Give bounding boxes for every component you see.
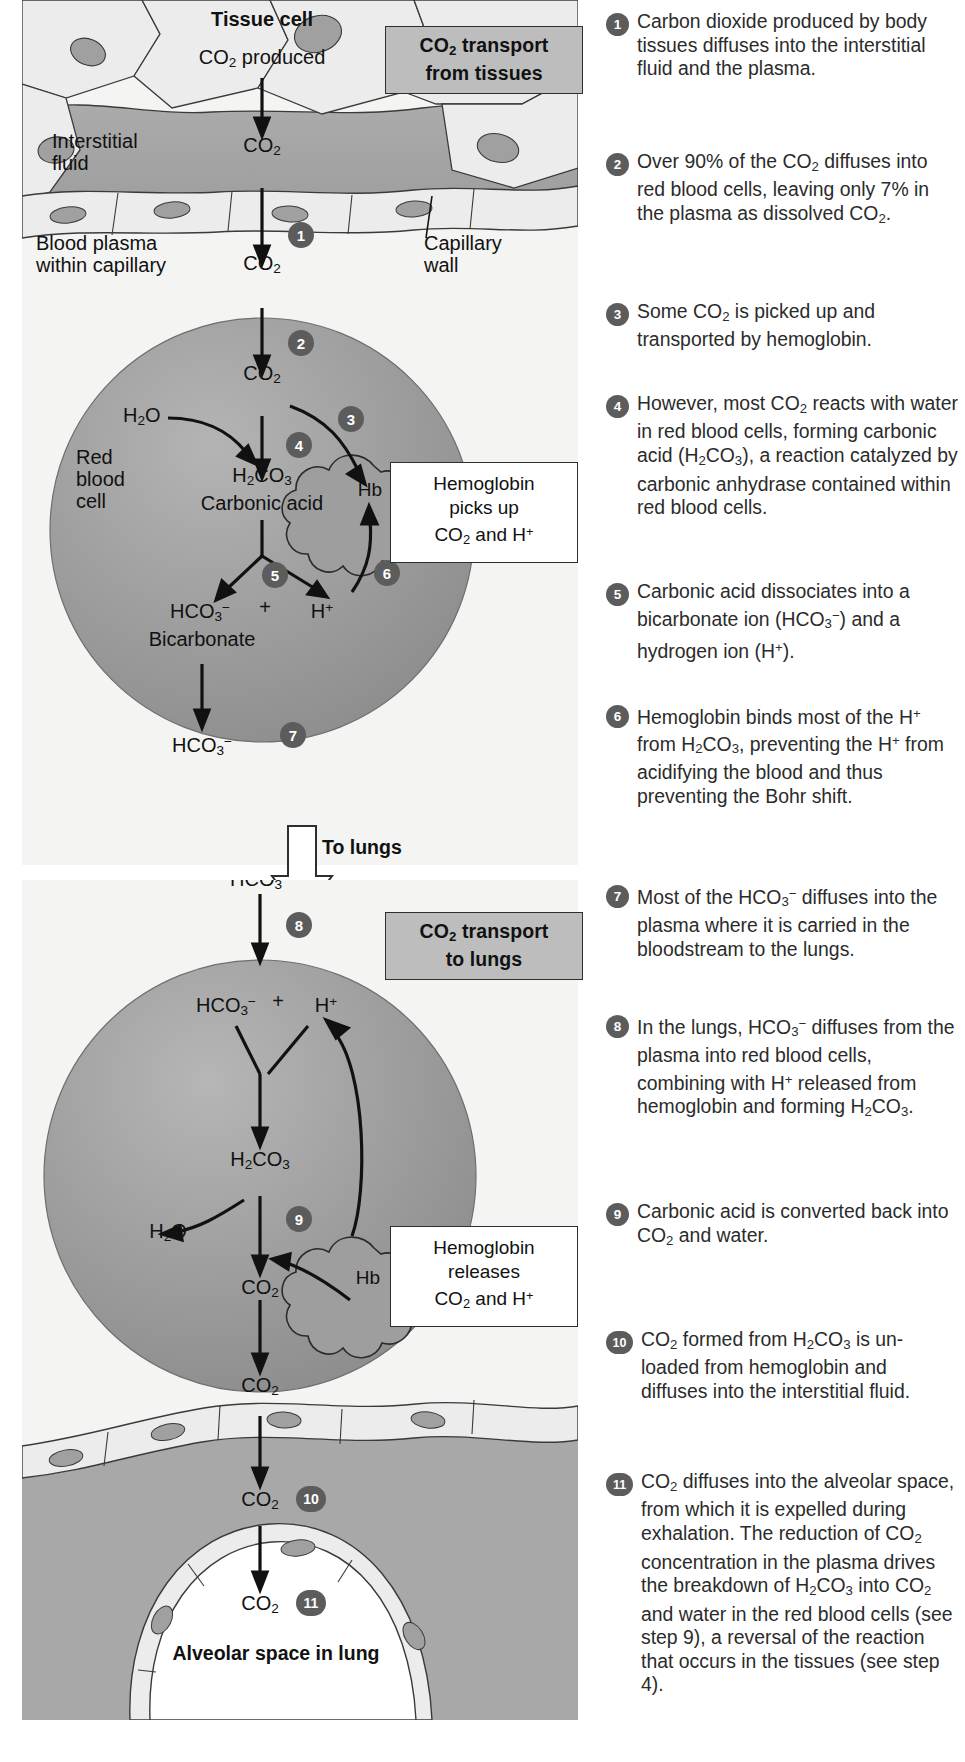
label-carbonic-acid-name: Carbonic acid — [201, 492, 323, 515]
callout-hemoglobin-releases: HemoglobinreleasesCO2 and H+ — [390, 1226, 578, 1327]
diagram-column: Tissue cell CO2 produced Interstitialflu… — [0, 0, 600, 1725]
step-item-1: 1 Carbon dioxide produced by body tissue… — [606, 10, 958, 81]
badge-step-8: 8 — [286, 912, 312, 938]
title-box-co2-transport-to-lungs: CO2 transportto lungs — [385, 912, 583, 980]
label-carbonic-acid-formula: H2CO3 — [232, 464, 292, 492]
step-item-9: 9 Carbonic acid is converted back into C… — [606, 1200, 958, 1252]
step-number-9: 9 — [606, 1203, 629, 1226]
step-number-5: 5 — [606, 583, 629, 606]
label-co2-plasma: CO2 — [243, 252, 281, 280]
step-item-11: 11 CO2 diffuses into the alveolar space,… — [606, 1470, 958, 1697]
step-text-2: Over 90% of the CO2 diffuses into red bl… — [637, 150, 958, 231]
label-bicarbonate-in-lungs: HCO3− — [230, 880, 290, 896]
panel-co2-transport-from-tissues: Tissue cell CO2 produced Interstitialflu… — [22, 0, 578, 865]
step-number-8: 8 — [606, 1015, 629, 1038]
label-plus-tissues: + — [259, 596, 271, 619]
step-text-7: Most of the HCO3− diffuses into the plas… — [637, 882, 958, 961]
label-carbonic-acid-lungs: H2CO3 — [230, 1148, 290, 1176]
step-text-6: Hemoglobin binds most of the H+ from H2C… — [637, 702, 958, 808]
step-text-8: In the lungs, HCO3− diffuses from the pl… — [637, 1012, 958, 1123]
step-text-11: CO2 diffuses into the alveolar space, fr… — [641, 1470, 958, 1697]
step-text-1: Carbon dioxide produced by body tissues … — [637, 10, 958, 81]
label-co2-plasma-lungs: CO2 — [241, 1374, 279, 1402]
badge-step-3: 3 — [338, 406, 364, 432]
capillary-wall-leader-line — [402, 196, 452, 240]
step-number-4: 4 — [606, 395, 629, 418]
label-bicarbonate-formula: HCO3− — [170, 596, 230, 628]
step-item-3: 3 Some CO2 is picked up and transported … — [606, 300, 958, 352]
label-bicarbonate-rbc-lungs: HCO3− — [196, 990, 256, 1022]
label-co2-interstitial-lungs: CO2 — [241, 1488, 279, 1516]
badge-step-6: 6 — [374, 560, 400, 586]
label-co2-produced: CO2 produced — [199, 46, 326, 74]
label-interstitial-fluid: Interstitialfluid — [52, 130, 162, 174]
badge-step-4: 4 — [286, 432, 312, 458]
label-water-tissues: H2O — [123, 404, 161, 432]
step-number-2: 2 — [606, 153, 629, 176]
step-text-9: Carbonic acid is converted back into CO2… — [637, 1200, 958, 1252]
label-water-lungs: H2O — [149, 1220, 187, 1248]
step-number-1: 1 — [606, 13, 629, 36]
step-item-5: 5 Carbonic acid dissociates into a bicar… — [606, 580, 958, 663]
label-hb-tissues: Hb — [358, 478, 382, 501]
label-hydrogen-ion-lungs: H+ — [315, 990, 337, 1017]
badge-step-7: 7 — [280, 722, 306, 748]
step-number-7: 7 — [606, 885, 629, 908]
badge-step-1: 1 — [288, 222, 314, 248]
label-alveolar-space: Alveolar space in lung — [173, 1642, 380, 1665]
figure-page: Tissue cell CO2 produced Interstitialflu… — [0, 0, 965, 1762]
step-number-10: 10 — [606, 1331, 633, 1354]
step-text-4: However, most CO2 reacts with water in r… — [637, 392, 958, 520]
label-co2-in-rbc: CO2 — [243, 362, 281, 390]
badge-step-5: 5 — [262, 562, 288, 588]
label-co2-interstitial: CO2 — [243, 134, 281, 162]
label-tissue-cell: Tissue cell — [211, 8, 313, 31]
title-box-co2-transport-from-tissues: CO2 transportfrom tissues — [385, 26, 583, 94]
callout-hemoglobin-picks-up: Hemoglobinpicks upCO2 and H+ — [390, 462, 578, 563]
panel-co2-transport-to-lungs: HCO3− HCO3− + H+ H2CO3 Hb H2O CO2 CO2 — [22, 880, 578, 1720]
step-text-10: CO2 formed from H2CO3 is un-loaded from … — [641, 1328, 958, 1404]
label-red-blood-cell: Redbloodcell — [76, 446, 166, 512]
step-item-8: 8 In the lungs, HCO3− diffuses from the … — [606, 1012, 958, 1123]
to-lungs-label: To lungs — [322, 836, 402, 859]
label-co2-in-rbc-lungs: CO2 — [241, 1276, 279, 1304]
label-plus-lungs: + — [272, 990, 284, 1013]
step-item-4: 4 However, most CO2 reacts with water in… — [606, 392, 958, 520]
step-text-3: Some CO2 is picked up and transported by… — [637, 300, 958, 352]
label-hb-lungs: Hb — [356, 1266, 380, 1289]
badge-step-9: 9 — [286, 1206, 312, 1232]
step-number-3: 3 — [606, 303, 629, 326]
step-item-2: 2 Over 90% of the CO2 diffuses into red … — [606, 150, 958, 231]
badge-step-2: 2 — [288, 330, 314, 356]
label-co2-alveolar: CO2 — [241, 1592, 279, 1620]
step-item-7: 7 Most of the HCO3− diffuses into the pl… — [606, 882, 958, 961]
step-text-5: Carbonic acid dissociates into a bicarbo… — [637, 580, 958, 663]
step-item-6: 6 Hemoglobin binds most of the H+ from H… — [606, 702, 958, 808]
step-item-10: 10 CO2 formed from H2CO3 is un-loaded fr… — [606, 1328, 958, 1404]
badge-step-11: 11 — [296, 1590, 326, 1616]
label-hydrogen-ion-tissues: H+ — [311, 596, 333, 623]
label-bicarbonate-name: Bicarbonate — [149, 628, 256, 651]
badge-step-10: 10 — [296, 1486, 326, 1512]
label-blood-plasma: Blood plasmawithin capillary — [36, 232, 216, 276]
step-number-6: 6 — [606, 705, 629, 728]
step-number-11: 11 — [606, 1473, 633, 1496]
label-bicarbonate-out: HCO3− — [172, 730, 232, 762]
